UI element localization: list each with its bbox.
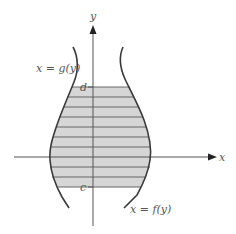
region-diagram: x y d c x = g(y) x = f(y) bbox=[0, 0, 236, 234]
curve-f-label: x = f(y) bbox=[130, 203, 171, 216]
y-axis-label: y bbox=[89, 10, 97, 23]
x-axis-arrow-icon bbox=[208, 154, 217, 161]
lower-bound-label: c bbox=[80, 181, 86, 194]
y-axis-arrow-icon bbox=[90, 25, 97, 34]
curve-g-label: x = g(y) bbox=[36, 62, 80, 75]
upper-bound-label: d bbox=[80, 81, 87, 94]
x-axis-label: x bbox=[219, 151, 226, 164]
